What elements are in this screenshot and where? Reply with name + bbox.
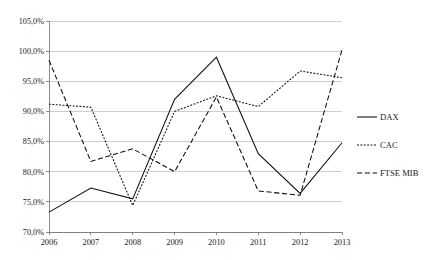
series-line-cac [49,71,342,205]
legend: DAXCACFTSE MIB [357,112,419,178]
data-series-group [49,50,342,212]
y-tick-label: 75,0% [23,198,44,207]
x-tick-label: 2008 [124,238,141,247]
x-tick-label: 2007 [82,238,99,247]
y-axis [46,21,49,232]
y-tick-label: 85,0% [23,137,44,146]
legend-label: DAX [380,112,399,122]
legend-label: FTSE MIB [380,168,419,178]
y-tick-label: 105,0% [19,17,44,26]
y-tick-label: 80,0% [23,168,44,177]
y-tick-label: 90,0% [23,107,44,116]
series-line-ftse-mib [49,50,342,195]
gridlines-group [49,21,342,232]
y-tick-labels: 70,0%75,0%80,0%85,0%90,0%95,0%100,0%105,… [19,17,44,237]
x-tick-label: 2013 [334,238,351,247]
y-tick-label: 70,0% [23,228,44,237]
x-tick-label: 2006 [41,238,58,247]
legend-item-cac[interactable]: CAC [357,140,398,150]
x-tick-label: 2010 [208,238,225,247]
x-tick-labels: 20062007200820092010201120122013 [41,238,351,247]
x-tick-label: 2012 [292,238,309,247]
legend-label: CAC [380,140,398,150]
line-chart: 70,0%75,0%80,0%85,0%90,0%95,0%100,0%105,… [0,0,429,260]
x-tick-label: 2009 [166,238,183,247]
legend-item-dax[interactable]: DAX [357,112,399,122]
x-axis [49,232,342,235]
y-tick-label: 95,0% [23,77,44,86]
legend-item-ftse-mib[interactable]: FTSE MIB [357,168,419,178]
x-tick-label: 2011 [250,238,266,247]
y-tick-label: 100,0% [19,47,44,56]
chart-canvas: 70,0%75,0%80,0%85,0%90,0%95,0%100,0%105,… [0,0,429,260]
